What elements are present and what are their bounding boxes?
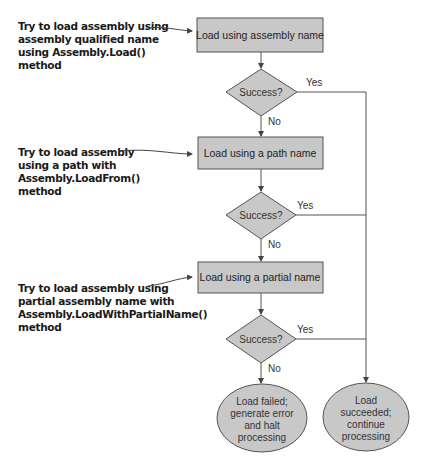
decision-2: Success? Yes No	[226, 192, 313, 250]
pointer-arrow-1	[146, 27, 192, 31]
no-label: No	[268, 363, 281, 374]
decision-1: Success? Yes No	[226, 69, 322, 127]
step-label: Load using a path name	[204, 147, 317, 159]
terminal-line: processing	[342, 431, 390, 442]
flowchart: Load using assembly name Success? Yes No…	[0, 0, 427, 465]
pointer-arrow-3	[148, 277, 192, 286]
yes-label: Yes	[306, 77, 322, 88]
terminal-line: Load	[355, 395, 377, 406]
step-load-assembly-name: Load using assembly name	[196, 18, 324, 52]
terminal-load-succeeded: Load succeeded; continue processing	[323, 383, 409, 451]
terminal-load-failed: Load failed; generate error and halt pro…	[217, 384, 307, 452]
step-load-path-name: Load using a path name	[198, 137, 323, 169]
step-label: Load using assembly name	[196, 29, 324, 41]
terminal-line: succeeded;	[340, 407, 391, 418]
terminal-line: continue	[347, 419, 385, 430]
step-load-partial-name: Load using a partial name	[198, 262, 323, 293]
yes-label: Yes	[297, 200, 313, 211]
no-label: No	[268, 239, 281, 250]
terminal-line: Load failed;	[236, 396, 288, 407]
yes-label: Yes	[297, 324, 313, 335]
pointer-arrow-2	[120, 150, 192, 154]
decision-3: Success? Yes No	[226, 315, 313, 374]
step-label: Load using a partial name	[200, 271, 321, 283]
terminal-line: processing	[238, 432, 286, 443]
decision-label: Success?	[239, 210, 283, 221]
terminal-line: and halt	[244, 420, 280, 431]
no-label: No	[268, 116, 281, 127]
decision-label: Success?	[239, 87, 283, 98]
terminal-line: generate error	[230, 408, 294, 419]
decision-label: Success?	[239, 334, 283, 345]
